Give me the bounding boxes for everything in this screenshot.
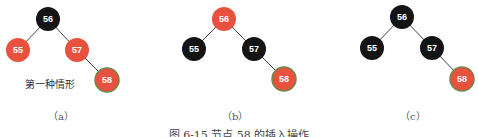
svg-text:56: 56 xyxy=(397,12,407,22)
svg-text:57: 57 xyxy=(427,43,437,53)
svg-text:58: 58 xyxy=(102,75,112,85)
tree-b: 56 55 57 58 xyxy=(182,7,296,91)
svg-text:55: 55 xyxy=(189,44,199,54)
svg-text:55: 55 xyxy=(13,45,23,55)
sub-label-b: （b） xyxy=(222,108,248,123)
svg-text:58: 58 xyxy=(457,74,467,84)
svg-text:57: 57 xyxy=(249,44,259,54)
sub-label-a: （a） xyxy=(48,108,74,123)
figure-caption: 图 6-15 节点 58 的插入操作 xyxy=(0,126,478,137)
svg-text:55: 55 xyxy=(367,43,377,53)
svg-text:57: 57 xyxy=(72,45,82,55)
sub-label-c: （c） xyxy=(400,108,426,123)
svg-text:56: 56 xyxy=(43,14,53,24)
case-note: 第一种情形 xyxy=(25,76,75,91)
tree-c: 56 55 57 58 xyxy=(360,5,474,91)
svg-text:58: 58 xyxy=(279,74,289,84)
svg-text:56: 56 xyxy=(219,14,229,24)
